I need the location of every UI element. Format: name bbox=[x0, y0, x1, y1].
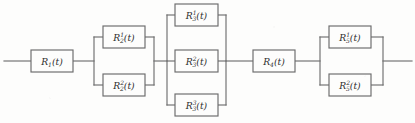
diagram-canvas: R1(t) R12(t) R22(t) R13(t) bbox=[0, 0, 415, 123]
block-r2-2: R22(t) bbox=[103, 74, 145, 96]
block-r3-2: R23(t) bbox=[175, 50, 218, 72]
block-r2-1-label: R12(t) bbox=[112, 30, 135, 44]
reliability-block-diagram: R1(t) R12(t) R22(t) R13(t) bbox=[0, 0, 415, 123]
block-r5-2-label: R25(t) bbox=[338, 78, 361, 92]
block-r2-1: R12(t) bbox=[103, 26, 145, 48]
block-r5-1-label: R15(t) bbox=[338, 30, 361, 44]
block-r5-1: R15(t) bbox=[329, 26, 371, 48]
block-r4: R4(t) bbox=[253, 50, 295, 72]
block-r3-2-label: R23(t) bbox=[185, 54, 208, 68]
block-r1: R1(t) bbox=[31, 50, 73, 72]
block-r3-3-label: R33(t) bbox=[185, 98, 208, 112]
block-r3-1: R13(t) bbox=[175, 4, 218, 26]
block-r3-3: R33(t) bbox=[175, 94, 218, 116]
block-r3-1-label: R13(t) bbox=[185, 8, 208, 22]
block-r2-2-label: R22(t) bbox=[112, 78, 135, 92]
block-r1-label: R1(t) bbox=[40, 56, 63, 68]
block-r4-label: R4(t) bbox=[262, 56, 285, 68]
block-r5-2: R25(t) bbox=[329, 74, 371, 96]
